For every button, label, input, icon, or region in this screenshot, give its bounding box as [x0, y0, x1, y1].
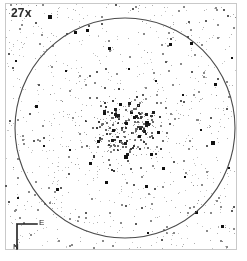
compass-lines-icon	[13, 219, 57, 251]
compass-label-east: E	[39, 219, 44, 227]
magnification-label: 27x	[11, 7, 32, 19]
eyepiece-view-panel: 27x E N	[0, 0, 247, 261]
compass-label-north: N	[13, 243, 19, 251]
compass: E N	[13, 219, 57, 251]
